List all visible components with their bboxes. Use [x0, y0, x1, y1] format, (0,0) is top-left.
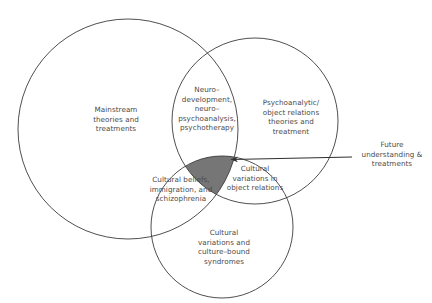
intersection-label-mainstream-cultural: Cultural beliefs, immigration, and schiz…: [142, 175, 220, 204]
intersection-label-mainstream-psychoanalytic: Neuro– development, neuro– psychoanalysi…: [176, 85, 238, 133]
venn-diagram: Mainstream theories and treatments Neuro…: [0, 0, 432, 303]
set-label-psychoanalytic: Psychoanalytic/ object relations theorie…: [248, 98, 334, 136]
callout-arrow: [231, 157, 352, 160]
set-label-mainstream: Mainstream theories and treatments: [78, 105, 154, 134]
callout-label-future: Future understanding & treatments: [355, 140, 429, 169]
set-label-cultural: Cultural variations and culture–bound sy…: [185, 228, 263, 266]
intersection-label-psychoanalytic-cultural: Cultural variations in object relations: [222, 164, 288, 193]
